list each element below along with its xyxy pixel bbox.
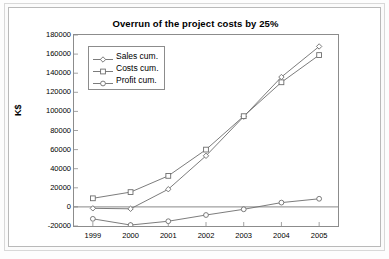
y-axis-tick-labels: 1800001600001400001200001000008000060000…: [23, 34, 71, 227]
x-axis-tick-labels: 1999200020012002200320042005: [73, 231, 339, 245]
legend-label: Sales cum.: [114, 51, 158, 62]
y-tick-label: 60000: [27, 146, 71, 154]
y-axis-title: K$: [13, 104, 23, 116]
y-tick-label: 80000: [27, 127, 71, 135]
x-tick-label: 1999: [73, 231, 113, 241]
square-marker-icon: [92, 63, 114, 74]
x-tick-label: 2005: [299, 231, 339, 241]
legend-item-costs-cum[interactable]: Costs cum.: [92, 62, 159, 74]
y-tick-label: 140000: [27, 69, 71, 77]
x-tick-label: 2000: [111, 231, 151, 241]
legend-item-sales-cum[interactable]: Sales cum.: [92, 50, 159, 62]
chart-title: Overrun of the project costs by 25%: [9, 18, 382, 29]
x-tick-label: 2003: [224, 231, 264, 241]
diamond-marker-icon: [92, 51, 114, 62]
y-tick-label: 20000: [27, 184, 71, 192]
y-tick-label: 120000: [27, 88, 71, 96]
y-tick-label: 100000: [27, 107, 71, 115]
legend-label: Costs cum.: [114, 63, 159, 74]
legend-label: Profit cum.: [114, 75, 157, 86]
y-tick-label: 180000: [27, 31, 71, 39]
x-tick-label: 2004: [261, 231, 301, 241]
y-tick-label: 160000: [27, 50, 71, 58]
y-tick-label: -20000: [27, 222, 71, 230]
chart-legend: Sales cum.Costs cum.Profit cum.: [88, 46, 165, 90]
circle-marker-icon: [92, 75, 114, 86]
legend-item-profit-cum[interactable]: Profit cum.: [92, 74, 159, 86]
chart-container: Overrun of the project costs by 25% K$ 1…: [8, 7, 381, 247]
x-tick-label: 2002: [186, 231, 226, 241]
y-tick-label: 40000: [27, 165, 71, 173]
y-tick-label: 0: [27, 203, 71, 211]
x-tick-label: 2001: [148, 231, 188, 241]
chart-screenshot: Overrun of the project costs by 25% K$ 1…: [0, 0, 389, 259]
